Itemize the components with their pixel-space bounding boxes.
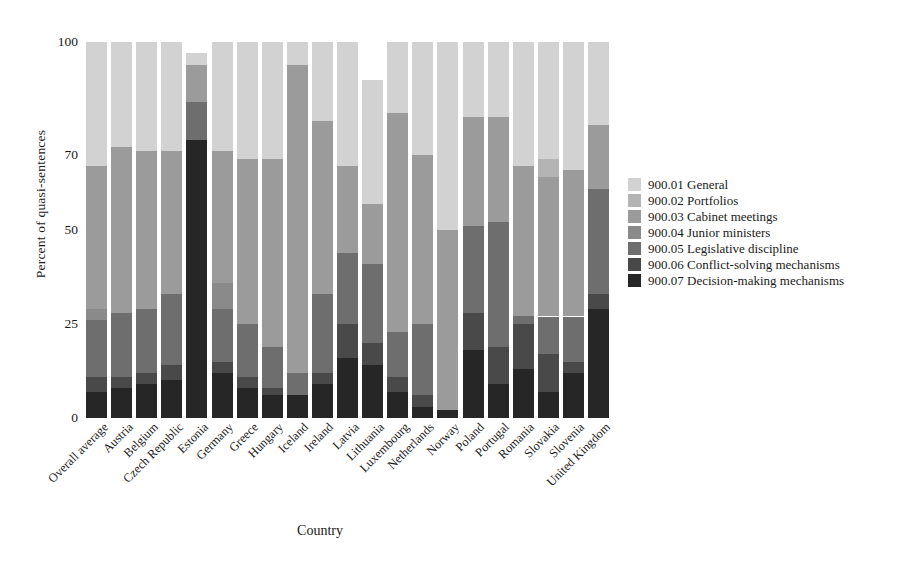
- bar-segment: [513, 42, 534, 166]
- legend-swatch-icon: [628, 258, 641, 271]
- stacked-bar-chart: Percent of quasi-sentences 0255070100 Ov…: [0, 0, 902, 577]
- legend-swatch-icon: [628, 226, 641, 239]
- bar-segment: [312, 42, 333, 121]
- bar-column[interactable]: [262, 42, 283, 418]
- bar-segment: [212, 283, 233, 309]
- legend-label: 900.02 Portfolios: [648, 194, 738, 207]
- bar-segment: [86, 377, 107, 392]
- bar-column[interactable]: [186, 42, 207, 418]
- legend-item[interactable]: 900.02 Portfolios: [628, 192, 844, 208]
- bar-segment: [588, 294, 609, 309]
- legend-item[interactable]: 900.01 General: [628, 176, 844, 192]
- legend-item[interactable]: 900.03 Cabinet meetings: [628, 208, 844, 224]
- bar-segment: [337, 42, 358, 166]
- bar-column[interactable]: [212, 42, 233, 418]
- bar-segment: [86, 320, 107, 376]
- bar-segment: [86, 392, 107, 418]
- bar-segment: [538, 159, 559, 178]
- bar-segment: [237, 159, 258, 324]
- bar-segment: [337, 324, 358, 358]
- bar-segment: [538, 317, 559, 355]
- bar-segment: [237, 42, 258, 159]
- bar-segment: [588, 189, 609, 294]
- legend-item[interactable]: 900.05 Legislative discipline: [628, 240, 844, 256]
- bar-segment: [563, 42, 584, 170]
- legend-item[interactable]: 900.07 Decision-making mechanisms: [628, 272, 844, 288]
- bar-column[interactable]: [387, 42, 408, 418]
- bar-column[interactable]: [337, 42, 358, 418]
- bar-segment: [387, 377, 408, 392]
- bar-segment: [111, 313, 132, 377]
- bar-segment: [161, 42, 182, 151]
- bar-column[interactable]: [161, 42, 182, 418]
- bar-segment: [337, 253, 358, 324]
- bar-segment: [437, 42, 458, 230]
- bar-column[interactable]: [513, 42, 534, 418]
- bar-column[interactable]: [563, 42, 584, 418]
- bar-segment: [186, 65, 207, 103]
- y-axis-ticks: 0255070100: [38, 0, 78, 577]
- bar-segment: [412, 42, 433, 155]
- bar-segment: [262, 347, 283, 388]
- legend-label: 900.05 Legislative discipline: [648, 242, 799, 255]
- bar-column[interactable]: [111, 42, 132, 418]
- bar-segment: [161, 151, 182, 294]
- bar-segment: [362, 343, 383, 366]
- bar-column[interactable]: [412, 42, 433, 418]
- bar-segment: [563, 170, 584, 317]
- x-axis-ticks: Overall averageAustriaBelgiumCzech Repub…: [86, 420, 646, 520]
- legend-swatch-icon: [628, 210, 641, 223]
- bar-segment: [262, 159, 283, 347]
- bar-column[interactable]: [362, 42, 383, 418]
- legend-item[interactable]: 900.04 Junior ministers: [628, 224, 844, 240]
- bar-segment: [186, 102, 207, 140]
- bar-column[interactable]: [437, 42, 458, 418]
- bar-segment: [312, 294, 333, 373]
- bar-segment: [538, 177, 559, 316]
- bar-segment: [588, 42, 609, 125]
- bar-segment: [111, 377, 132, 388]
- bar-segment: [111, 147, 132, 312]
- bar-segment: [287, 65, 308, 373]
- bar-segment: [387, 42, 408, 113]
- bar-segment: [86, 309, 107, 320]
- bar-column[interactable]: [136, 42, 157, 418]
- bar-column[interactable]: [237, 42, 258, 418]
- legend-label: 900.01 General: [648, 178, 728, 191]
- bar-segment: [513, 316, 534, 324]
- bar-column[interactable]: [463, 42, 484, 418]
- bar-segment: [387, 113, 408, 331]
- bar-segment: [588, 125, 609, 189]
- bar-segment: [488, 347, 509, 385]
- legend: 900.01 General900.02 Portfolios900.03 Ca…: [628, 176, 844, 288]
- bar-segment: [563, 317, 584, 362]
- bar-segment: [362, 80, 383, 204]
- bar-segment: [161, 294, 182, 365]
- bar-column[interactable]: [86, 42, 107, 418]
- bar-segment: [237, 324, 258, 377]
- bar-segment: [488, 222, 509, 346]
- legend-label: 900.06 Conflict-solving mechanisms: [648, 258, 840, 271]
- bar-segment: [362, 264, 383, 343]
- legend-item[interactable]: 900.06 Conflict-solving mechanisms: [628, 256, 844, 272]
- bar-column[interactable]: [287, 42, 308, 418]
- bar-column[interactable]: [488, 42, 509, 418]
- legend-swatch-icon: [628, 178, 641, 191]
- bar-segment: [563, 362, 584, 373]
- bar-segment: [237, 377, 258, 388]
- y-tick-label: 100: [42, 35, 78, 49]
- bar-column[interactable]: [538, 42, 559, 418]
- bar-segment: [463, 42, 484, 117]
- bar-column[interactable]: [312, 42, 333, 418]
- y-tick-label: 50: [42, 223, 78, 237]
- bar-column[interactable]: [588, 42, 609, 418]
- bar-segment: [262, 42, 283, 159]
- bar-segment: [463, 117, 484, 226]
- bar-segment: [136, 42, 157, 151]
- bar-segment: [86, 42, 107, 166]
- bar-segment: [513, 324, 534, 369]
- bar-segment: [136, 309, 157, 373]
- bar-segment: [86, 166, 107, 309]
- y-tick-label: 0: [42, 411, 78, 425]
- bar-segment: [463, 226, 484, 312]
